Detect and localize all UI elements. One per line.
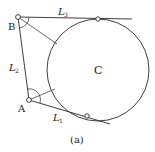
svg-text:2: 2 — [15, 67, 19, 74]
svg-text:3: 3 — [64, 11, 68, 18]
svg-text:1: 1 — [59, 117, 63, 124]
point-a-label: A — [17, 103, 26, 114]
line-l1 — [29, 100, 110, 124]
diagram: B A C L 3 L 2 L 1 (a) — [0, 0, 155, 152]
line-l2-label: L 2 — [8, 62, 19, 74]
line-l3-label: L 3 — [57, 6, 68, 18]
tangent-point-bottom — [85, 114, 89, 118]
line-l2 — [18, 17, 29, 100]
point-b-label: B — [8, 21, 15, 32]
figure-caption: (a) — [70, 134, 84, 145]
tangent-point-top — [96, 17, 100, 21]
construction-line-b — [18, 17, 57, 44]
point-b-marker — [16, 15, 21, 20]
construction-line-a — [29, 89, 55, 100]
line-l1-label: L 1 — [52, 112, 63, 124]
line-l3 — [18, 17, 132, 19]
point-a-marker — [27, 98, 32, 103]
circle-c-label: C — [94, 64, 102, 77]
